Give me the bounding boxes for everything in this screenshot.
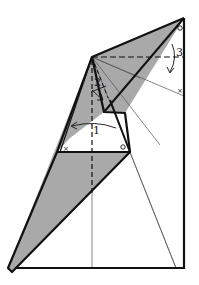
crease-line (130, 152, 176, 268)
ref-mark-x-right: × (177, 87, 183, 95)
ref-mark-x-triangle: × (63, 145, 69, 153)
step1-label: 1 (93, 124, 100, 137)
step3-arrowhead-icon (167, 67, 174, 73)
step3-arrow (170, 44, 175, 72)
origami-diagram: 1 2 3 × × (0, 0, 199, 285)
step2-label: 2 (94, 76, 101, 89)
step3-label: 3 (176, 46, 183, 59)
ref-mark-circle-top (178, 26, 182, 30)
shaded-top-flap (92, 18, 184, 113)
